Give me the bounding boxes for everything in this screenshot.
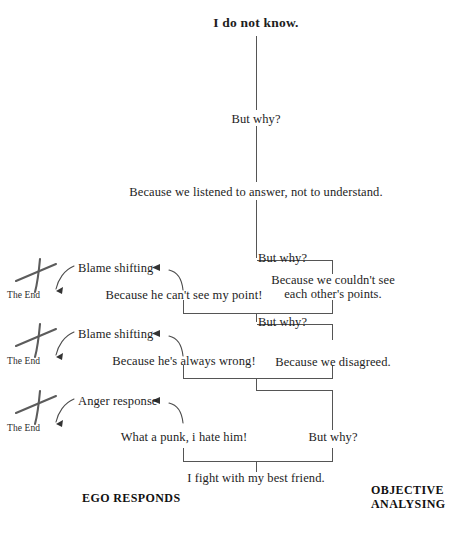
node-ego-statement-2: Because he's always wrong!	[112, 354, 255, 368]
node-answer-2-line1: Because we couldn't see	[271, 273, 395, 287]
leader-branch1-to-statement	[169, 270, 183, 290]
flowchart-canvas: I do not know. But why? Because we liste…	[0, 0, 471, 536]
arrowhead-end-icon-1	[56, 287, 63, 294]
footer-label-ego: EGO RESPONDS	[82, 491, 181, 505]
node-ego-label-2: Blame shifting	[78, 327, 153, 341]
leader-branch2-to-statement	[169, 336, 183, 356]
arrowhead-end-icon-2	[56, 353, 63, 360]
arrowhead-end-icon-3	[56, 420, 63, 427]
node-answer-2-line2: each other's points.	[284, 287, 382, 301]
leader-branch3-to-statement	[169, 403, 183, 423]
node-root-statement: I do not know.	[213, 16, 298, 30]
x-cross-icon-2	[16, 324, 56, 357]
connector-merge-down-why4	[257, 379, 333, 431]
connector-merge-to-why3	[184, 300, 333, 314]
node-answer-1: Because we listened to answer, not to un…	[129, 185, 382, 199]
node-the-end-1: The End	[7, 288, 40, 302]
node-the-end-2: The End	[7, 354, 40, 368]
node-the-end-3: The End	[7, 421, 40, 435]
node-ego-statement-1: Because he can't see my point!	[106, 288, 263, 302]
node-ego-label-1: Blame shifting	[78, 261, 153, 275]
node-why-2: But why?	[258, 251, 307, 265]
node-ego-statement-3: What a punk, i hate him!	[121, 430, 248, 444]
leader-branch3-to-end	[56, 399, 74, 422]
node-answer-3: Because we disagreed.	[275, 355, 391, 369]
node-why-3: But why?	[258, 315, 307, 329]
footer-label-objective-line1: OBJECTIVE	[371, 483, 444, 497]
leader-branch2-to-end	[56, 332, 74, 355]
connector-merge-to-answer4	[184, 448, 333, 462]
node-why-4: But why?	[308, 430, 357, 444]
leader-branch1-to-end	[56, 266, 74, 289]
node-ego-label-3: Anger response	[78, 394, 158, 408]
connector-layer	[0, 0, 471, 536]
footer-label-objective-line2: ANALYSING	[371, 497, 446, 511]
node-why-1: But why?	[231, 112, 280, 126]
x-cross-icon-3	[16, 391, 56, 424]
node-answer-4: I fight with my best friend.	[187, 471, 325, 485]
